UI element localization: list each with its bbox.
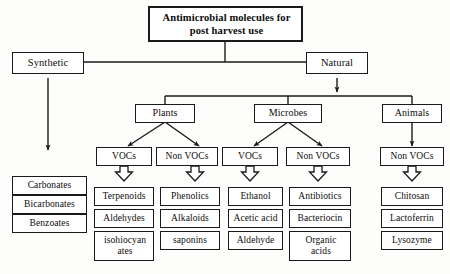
node-microbes: Microbes [254,104,322,123]
leaf-lysozyme: Lysozyme [381,231,443,250]
leaf-antibiotics: Antibiotics [289,187,351,206]
node-synthetic: Synthetic [12,52,84,74]
leaf-ethanol: Ethanol [228,187,283,206]
node-plants-non-vocs-label: Non VOCs [157,152,217,162]
leaf-terpenoids-label: Terpenoids [95,192,153,202]
leaf-organic-acids-line-2: acids [291,246,351,257]
leaf-phenolics: Phenolics [160,187,220,206]
node-natural-label: Natural [307,57,367,68]
edge-plants-to-vocs [128,122,165,146]
leaf-organic-acids: Organic acids [289,231,351,261]
leaf-lysozyme-label: Lysozyme [382,236,442,246]
leaf-benzoates: Benzoates [12,214,87,233]
leaf-aldehyde: Aldehyde [228,231,283,250]
node-plants-vocs: VOCs [96,147,152,166]
leaf-saponins-label: saponins [161,236,219,246]
node-synthetic-label: Synthetic [13,57,83,68]
leaf-chitosan: Chitosan [381,187,443,206]
leaf-acetic-acid: Acetic acid [228,209,283,228]
leaf-saponins: saponins [160,231,220,250]
leaf-bacteriocin: Bacteriocin [289,209,351,228]
edge-plants-to-non-vocs [165,122,199,146]
title-box: Antimicrobial molecules for post harvest… [148,6,303,42]
block-arrow-plants-non-vocs [187,166,204,181]
node-microbes-vocs: VOCs [222,147,278,166]
block-arrow-plants-vocs [116,166,133,181]
leaf-lactoferrin: Lactoferrin [381,209,443,228]
leaf-chitosan-label: Chitosan [382,192,442,202]
node-animals-label: Animals [383,108,441,119]
edge-microbes-to-vocs [254,122,288,146]
node-microbes-label: Microbes [255,108,321,119]
leaf-lactoferrin-label: Lactoferrin [382,214,442,224]
leaf-benzoates-label: Benzoates [13,219,86,229]
leaf-terpenoids: Terpenoids [94,187,154,206]
node-microbes-vocs-label: VOCs [223,152,277,162]
leaf-phenolics-label: Phenolics [161,192,219,202]
leaf-bacteriocin-label: Bacteriocin [290,214,350,224]
node-animals-non-vocs: Non VOCs [380,147,444,166]
node-animals: Animals [382,104,442,123]
block-arrow-animals-non-vocs [404,166,421,181]
node-plants-non-vocs: Non VOCs [156,147,218,166]
leaf-antibiotics-label: Antibiotics [290,192,350,202]
node-microbes-non-vocs: Non VOCs [286,147,350,166]
block-arrow-microbes-non-vocs [310,166,327,181]
title-line-2: post harvest use [151,24,302,37]
node-plants-vocs-label: VOCs [97,152,151,162]
title-line-1: Antimicrobial molecules for [151,11,302,24]
leaf-carbonates-label: Carbonates [13,181,86,191]
edge-microbes-to-non-vocs [288,122,322,146]
flowchart-canvas: Antimicrobial molecules for post harvest… [0,0,450,274]
leaf-carbonates: Carbonates [12,176,87,195]
leaf-isothiocyanates: isohiocyan ates [94,231,154,261]
leaf-organic-acids-line-1: Organic [291,235,351,246]
leaf-ethanol-label: Ethanol [229,192,282,202]
block-arrow-microbes-vocs [242,166,259,181]
leaf-aldehydes-label: Aldehydes [95,214,153,224]
node-microbes-non-vocs-label: Non VOCs [287,152,349,162]
leaf-isothiocyanates-line-2: ates [96,246,154,257]
leaf-isothiocyanates-line-1: isohiocyan [96,235,154,246]
node-plants: Plants [135,104,195,123]
leaf-acetic-acid-label: Acetic acid [229,214,282,224]
node-animals-non-vocs-label: Non VOCs [381,152,443,162]
node-plants-label: Plants [136,108,194,119]
leaf-bicarbonates-label: Bicarbonates [13,200,86,210]
leaf-alkaloids-label: Alkaloids [161,214,219,224]
leaf-aldehyde-label: Aldehyde [229,236,282,246]
leaf-alkaloids: Alkaloids [160,209,220,228]
leaf-bicarbonates: Bicarbonates [12,195,87,214]
node-natural: Natural [306,52,368,74]
leaf-aldehydes: Aldehydes [94,209,154,228]
